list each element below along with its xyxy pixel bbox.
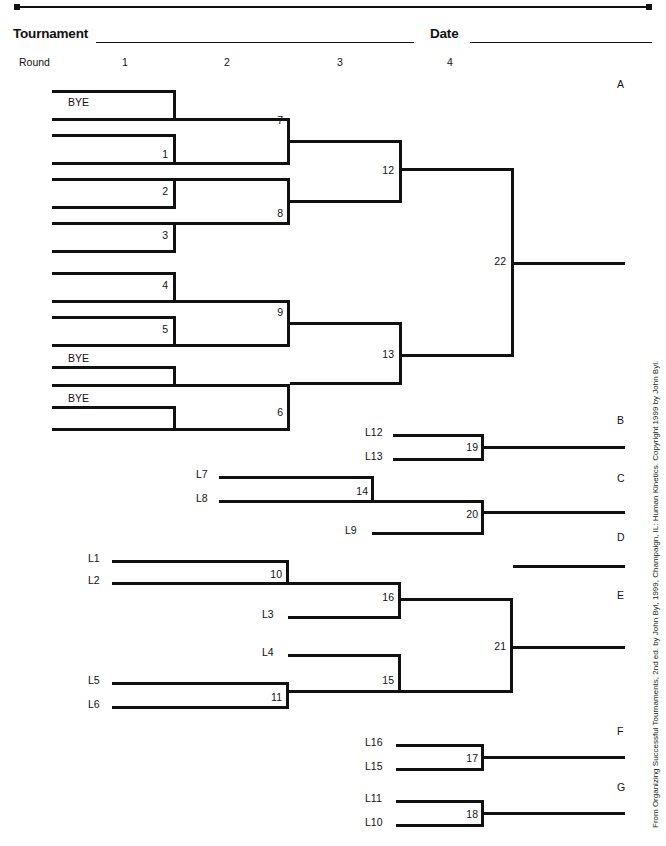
r1-game-number-1: 1	[140, 148, 168, 160]
tournament-write-in-line[interactable]	[96, 42, 414, 43]
loser-line-L15[interactable]	[396, 768, 484, 771]
r2-line-8-top[interactable]	[176, 178, 290, 181]
r1-game-number-5: 5	[140, 323, 168, 335]
r3-line-12-bottom[interactable]	[290, 200, 402, 203]
r1-connector-1	[173, 90, 176, 121]
loser-line-L6[interactable]	[112, 706, 289, 709]
loser-line-20-top[interactable]	[374, 500, 484, 503]
r2-game-number-6: 6	[255, 406, 283, 418]
output-letter-C: C	[617, 472, 625, 484]
loser-connector-20	[481, 500, 484, 535]
loser-connector-15	[398, 654, 401, 693]
r1-entry-bye-1: BYE	[68, 96, 89, 108]
r1-line-8b[interactable]	[52, 428, 176, 431]
r2-line-6-bottom[interactable]	[176, 428, 290, 431]
r1-line-3b[interactable]	[52, 206, 176, 209]
loser-line-L3[interactable]	[288, 616, 401, 619]
output-line-C[interactable]	[484, 511, 625, 514]
r1-line-1a[interactable]	[52, 90, 176, 93]
r1-connector-6	[173, 316, 176, 347]
bracket-sheet: Tournament Date Round 1 2 3 4 BYE 1 7 2 …	[0, 0, 666, 846]
loser-line-L2[interactable]	[112, 582, 289, 585]
feeder-L4: L4	[262, 646, 274, 658]
r3-line-13-top[interactable]	[290, 322, 402, 325]
loser-line-L1[interactable]	[112, 560, 289, 563]
output-letter-F: F	[617, 725, 623, 737]
feeder-L8: L8	[196, 492, 208, 504]
loser-line-L16[interactable]	[396, 744, 484, 747]
r2-line-9-bottom[interactable]	[176, 344, 290, 347]
output-letter-D: D	[617, 531, 625, 543]
r2-line-8-bottom[interactable]	[176, 222, 290, 225]
loser-line-21-bottom[interactable]	[401, 690, 513, 693]
loser-connector-14	[371, 476, 374, 503]
r1-line-1b[interactable]	[52, 118, 176, 121]
loser-line-L10[interactable]	[396, 824, 484, 827]
r1-game-number-2: 2	[140, 185, 168, 197]
r3-game-number-12: 12	[364, 164, 394, 176]
r2-line-6-top[interactable]	[176, 384, 290, 387]
r3-connector-12	[399, 140, 402, 203]
output-letter-E: E	[617, 589, 624, 601]
feeder-L1: L1	[88, 552, 100, 564]
loser-line-L11[interactable]	[396, 800, 484, 803]
r1-entry-bye-3: BYE	[68, 392, 89, 404]
round-number-3: 3	[320, 56, 360, 68]
r4-line-22-bottom[interactable]	[402, 354, 514, 357]
r1-line-3a[interactable]	[52, 178, 176, 181]
feeder-L2: L2	[88, 574, 100, 586]
r1-line-4a[interactable]	[52, 222, 176, 225]
loser-game-number-18: 18	[450, 808, 478, 820]
loser-line-11-out[interactable]	[289, 690, 401, 693]
output-letter-B: B	[617, 414, 624, 426]
r1-entry-bye-2: BYE	[68, 352, 89, 364]
feeder-L10: L10	[365, 816, 383, 828]
r1-line-6a[interactable]	[52, 316, 176, 319]
r1-game-number-4: 4	[140, 279, 168, 291]
loser-line-L12[interactable]	[393, 434, 484, 437]
output-line-F[interactable]	[484, 756, 625, 759]
r3-line-12-top[interactable]	[290, 140, 402, 143]
loser-line-21-top[interactable]	[401, 598, 513, 601]
feeder-L11: L11	[365, 792, 382, 804]
r3-game-number-13: 13	[364, 348, 394, 360]
loser-line-L7[interactable]	[219, 476, 374, 479]
r2-game-number-8: 8	[255, 207, 283, 219]
loser-line-L4[interactable]	[288, 654, 401, 657]
loser-line-16-top[interactable]	[289, 582, 401, 585]
output-line-G[interactable]	[484, 812, 625, 815]
loser-line-L5[interactable]	[112, 682, 289, 685]
output-line-A[interactable]	[514, 262, 625, 265]
r1-line-7b[interactable]	[52, 384, 176, 387]
r3-line-13-bottom[interactable]	[290, 382, 402, 385]
feeder-L13: L13	[365, 450, 383, 462]
date-label: Date	[430, 26, 458, 41]
r2-line-7-bottom[interactable]	[176, 162, 290, 165]
loser-line-L8[interactable]	[219, 500, 374, 503]
r1-line-4b[interactable]	[52, 250, 176, 253]
loser-game-number-21: 21	[476, 640, 506, 652]
output-line-B[interactable]	[484, 446, 625, 449]
r1-line-5a[interactable]	[52, 272, 176, 275]
r1-line-2b[interactable]	[52, 162, 176, 165]
date-write-in-line[interactable]	[470, 42, 652, 43]
output-line-E[interactable]	[513, 646, 625, 649]
r4-line-22-top[interactable]	[402, 168, 514, 171]
r1-connector-5	[173, 272, 176, 303]
r1-line-5b[interactable]	[52, 300, 176, 303]
r1-line-8a[interactable]	[52, 406, 176, 409]
r1-line-6b[interactable]	[52, 344, 176, 347]
feeder-L7: L7	[196, 468, 208, 480]
r2-connector-6	[287, 384, 290, 431]
feeder-L12: L12	[365, 426, 383, 438]
output-line-D[interactable]	[513, 565, 625, 568]
output-letter-G: G	[617, 781, 625, 793]
loser-line-L9[interactable]	[372, 532, 484, 535]
feeder-L15: L15	[365, 760, 383, 772]
r1-line-2a[interactable]	[52, 134, 176, 137]
loser-line-L13[interactable]	[393, 458, 484, 461]
top-rule-cap-left	[14, 4, 20, 10]
r2-line-9-top[interactable]	[176, 300, 290, 303]
r1-line-7a[interactable]	[52, 366, 176, 369]
feeder-L5: L5	[88, 674, 100, 686]
